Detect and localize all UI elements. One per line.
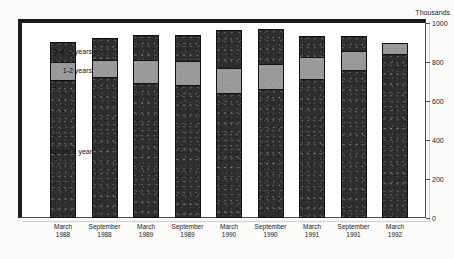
bar-segment-1-2-years (382, 43, 408, 55)
bar-september-1989[interactable] (175, 23, 201, 218)
y-axis-tick-mark (426, 140, 430, 141)
bar-march-1989[interactable] (133, 23, 159, 218)
bar-segment-over-2-years (299, 36, 325, 57)
bar-segment-over-2-years (216, 30, 242, 68)
y-axis-tick-label: 600 (432, 98, 444, 105)
bar-segment-1-2-years (133, 60, 159, 83)
y-axis-tick-label: 200 (432, 176, 444, 183)
bar-segment-over-2-years (341, 36, 367, 52)
bar-september-1991[interactable] (341, 23, 367, 218)
bar-segment-1-2-years (299, 57, 325, 78)
bar-segment-1-2-years (341, 51, 367, 70)
bar-segment-under-1-year (175, 85, 201, 218)
y-axis-tick-label: 400 (432, 137, 444, 144)
y-axis-tick-mark (426, 179, 430, 180)
bar-segment-over-2-years (133, 35, 159, 60)
bar-march-1992[interactable] (382, 23, 408, 218)
y-axis-tick-mark (426, 101, 430, 102)
series-label-over-2-years: Over 2 years (24, 48, 92, 55)
bar-segment-over-2-years (175, 35, 201, 61)
x-axis-tick-label: March1992 (369, 223, 421, 239)
bar-march-1991[interactable] (299, 23, 325, 218)
y-axis-tick-label: 1000 (432, 20, 448, 27)
bar-september-1988[interactable] (92, 23, 118, 218)
bar-segment-under-1-year (133, 83, 159, 218)
y-axis-unit-label: Thousands (415, 9, 450, 16)
bar-segment-under-1-year (216, 93, 242, 218)
series-label-under-1-year: Under 1 year (24, 148, 92, 155)
bar-segment-under-1-year (299, 79, 325, 218)
y-axis-tick-label: 0 (432, 215, 436, 222)
chart-figure: Thousands 02004006008001000 March1988Sep… (0, 0, 454, 259)
y-axis-tick-mark (426, 23, 430, 24)
bar-segment-under-1-year (92, 77, 118, 218)
y-axis-tick-mark (426, 62, 430, 63)
bar-segment-1-2-years (175, 61, 201, 85)
series-label-1-2-years: 1-2 years (24, 67, 92, 74)
bar-segment-under-1-year (258, 89, 284, 218)
bar-segment-1-2-years (216, 68, 242, 93)
y-axis-tick-label: 800 (432, 59, 444, 66)
y-axis-tick-mark (426, 218, 430, 219)
bar-segment-1-2-years (258, 64, 284, 89)
figure-title (0, 1, 454, 8)
bar-segment-under-1-year (382, 54, 408, 218)
bar-september-1990[interactable] (258, 23, 284, 218)
bar-segment-over-2-years (258, 29, 284, 64)
bar-segment-1-2-years (92, 60, 118, 77)
bar-segment-under-1-year (341, 70, 367, 218)
bar-march-1990[interactable] (216, 23, 242, 218)
bar-segment-over-2-years (92, 38, 118, 60)
